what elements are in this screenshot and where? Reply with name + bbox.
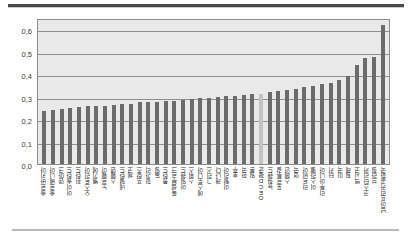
x-label-cell: 코스타리카 xyxy=(362,167,371,225)
x-axis-category-label: 슬로베니아 xyxy=(49,167,55,196)
x-axis-category-label: 리투아니아 xyxy=(319,167,325,196)
bar[interactable] xyxy=(320,84,324,164)
bar[interactable] xyxy=(146,102,150,164)
bar[interactable] xyxy=(276,91,280,164)
bar-cell xyxy=(135,20,144,164)
bar-cell xyxy=(196,20,205,164)
bar[interactable] xyxy=(60,109,64,164)
bar[interactable] xyxy=(337,80,341,164)
bar[interactable] xyxy=(363,58,367,164)
bar[interactable] xyxy=(372,57,376,164)
x-label-cell: 슬로바키아 xyxy=(39,167,48,225)
bar-cell xyxy=(92,20,101,164)
bar[interactable] xyxy=(224,96,228,164)
bar[interactable] xyxy=(216,97,220,164)
x-label-cell: 이탈리아 xyxy=(222,167,231,225)
bar[interactable] xyxy=(103,106,107,164)
bar-cell xyxy=(205,20,214,164)
bottom-divider xyxy=(12,229,399,231)
x-label-cell: 헝가리 xyxy=(144,167,153,225)
bar[interactable] xyxy=(120,104,124,164)
x-axis-category-label: OECD평균 xyxy=(258,167,264,201)
x-axis-category-label: 그리스 xyxy=(206,167,212,184)
x-axis-category-label: 헝가리 xyxy=(145,167,151,184)
bar[interactable] xyxy=(86,106,90,164)
bar[interactable] xyxy=(268,92,272,164)
bar-cell xyxy=(378,20,387,164)
bar[interactable] xyxy=(233,96,237,164)
bar[interactable] xyxy=(198,98,202,164)
x-axis-category-label: 한국 xyxy=(241,167,247,178)
bar[interactable] xyxy=(51,110,55,164)
x-axis-category-label: 독일 xyxy=(154,167,160,178)
bar[interactable] xyxy=(164,101,168,164)
x-axis-category-label: 남아프리카공화국 xyxy=(380,167,386,213)
bar[interactable] xyxy=(94,106,98,164)
x-label-cell: 호주 xyxy=(231,167,240,225)
bar[interactable] xyxy=(129,104,133,164)
bar-highlighted[interactable] xyxy=(259,94,263,164)
x-axis-category-label: 스웨덴 xyxy=(110,167,116,184)
bar-cell xyxy=(283,20,292,164)
bar[interactable] xyxy=(302,87,306,164)
bar[interactable] xyxy=(207,98,211,164)
bar[interactable] xyxy=(181,100,185,164)
x-label-cell: 칠레 xyxy=(344,167,353,225)
x-axis-category-label: 칠레 xyxy=(345,167,351,178)
bar-cell xyxy=(57,20,66,164)
bar-cell xyxy=(66,20,75,164)
bar[interactable] xyxy=(112,105,116,164)
x-label-cell: 남아프리카공화국 xyxy=(379,167,388,225)
x-label-cell: 일본 xyxy=(248,167,257,225)
x-label-cell: 덴마크 xyxy=(56,167,65,225)
x-label-cell: OECD평균 xyxy=(257,167,266,225)
bar[interactable] xyxy=(346,76,350,164)
x-label-cell: 미국 xyxy=(335,167,344,225)
x-axis-category-label: 멕시코 xyxy=(354,167,360,184)
bar[interactable] xyxy=(329,83,333,164)
bar[interactable] xyxy=(138,102,142,164)
x-axis-category-label: 프랑스 xyxy=(136,167,142,184)
x-label-cell: 뉴질랜드 xyxy=(266,167,275,225)
bar-cell xyxy=(170,20,179,164)
bar-cell xyxy=(318,20,327,164)
x-axis-category-label: 체코 xyxy=(127,167,133,178)
x-label-cell: 룩셈부르크 xyxy=(170,167,179,225)
bar[interactable] xyxy=(68,108,72,164)
bar-cell xyxy=(49,20,58,164)
bar[interactable] xyxy=(172,101,176,164)
bar[interactable] xyxy=(77,107,81,164)
bar[interactable] xyxy=(294,89,298,164)
x-axis-category-label: 벨기에 xyxy=(92,167,98,184)
bar[interactable] xyxy=(355,65,359,164)
bar[interactable] xyxy=(242,95,246,164)
x-axis-category-label: 영국 xyxy=(293,167,299,178)
bar[interactable] xyxy=(381,25,385,164)
x-axis-labels: 슬로바키아슬로베니아덴마크아이슬란드핀란드오스트리아벨기에노르웨이스웨덴네덜란드… xyxy=(37,167,390,225)
bar[interactable] xyxy=(42,111,46,164)
x-label-cell: 스위스 xyxy=(187,167,196,225)
bar[interactable] xyxy=(190,99,194,164)
x-axis-category-label: 오스트리아 xyxy=(84,167,90,196)
bar[interactable] xyxy=(285,90,289,164)
x-axis-category-label: 캐나다 xyxy=(215,167,221,184)
bar-cell xyxy=(291,20,300,164)
bar-cell xyxy=(83,20,92,164)
x-label-cell: 브라질 xyxy=(370,167,379,225)
x-label-cell: 아일랜드 xyxy=(179,167,188,225)
bar-cell xyxy=(179,20,188,164)
x-label-cell: 핀란드 xyxy=(74,167,83,225)
x-axis-category-label: 이탈리아 xyxy=(223,167,229,190)
x-label-cell: 네덜란드 xyxy=(117,167,126,225)
bar[interactable] xyxy=(311,86,315,164)
bar-cell xyxy=(118,20,127,164)
bar-cell xyxy=(335,20,344,164)
chart-page: 0,00,10,20,30,40,50,6 슬로바키아슬로베니아덴마크아이슬란드… xyxy=(0,0,411,241)
bar[interactable] xyxy=(250,94,254,164)
bar[interactable] xyxy=(155,102,159,164)
bar-series xyxy=(38,20,389,164)
bar-cell xyxy=(127,20,136,164)
x-axis-category-label: 노르웨이 xyxy=(101,167,107,190)
x-axis-category-label: 폴란드 xyxy=(162,167,168,184)
plot-area xyxy=(37,19,390,165)
